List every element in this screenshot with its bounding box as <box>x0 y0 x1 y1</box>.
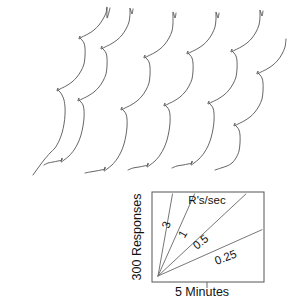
figure-background <box>0 0 289 302</box>
y-axis-label: 300 Responses <box>130 194 144 281</box>
rate-units-label: R's/sec <box>188 194 226 206</box>
cumulative-record-figure: R's/sec 3 1 0.5 0.25 300 Responses 5 Min… <box>0 0 289 302</box>
x-axis-label: 5 Minutes <box>175 285 229 299</box>
